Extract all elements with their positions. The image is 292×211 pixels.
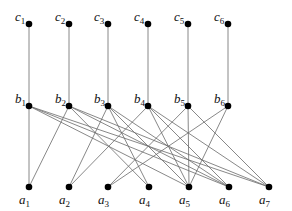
edge-b6-a5: [189, 106, 228, 187]
node-c5: [185, 21, 192, 28]
node-a6: [226, 184, 233, 191]
edge-b3-a2: [69, 106, 108, 187]
edge-b2-a1: [29, 106, 69, 187]
label-c2: c2: [55, 9, 65, 26]
label-a1: a1: [19, 192, 30, 209]
edge-b3-a4: [108, 106, 149, 187]
node-c4: [145, 21, 152, 28]
label-a6: a6: [219, 192, 231, 209]
label-a2: a2: [59, 192, 70, 209]
label-a5: a5: [179, 192, 191, 209]
node-c1: [26, 21, 33, 28]
label-a3: a3: [98, 192, 110, 209]
label-c3: c3: [94, 9, 105, 26]
node-b1: [26, 103, 33, 110]
node-c3: [105, 21, 112, 28]
node-a3: [105, 184, 112, 191]
label-a4: a4: [139, 192, 151, 209]
node-b5: [185, 103, 192, 110]
node-c6: [225, 21, 232, 28]
node-c2: [66, 21, 73, 28]
node-b6: [225, 103, 232, 110]
label-c6: c6: [214, 9, 225, 26]
node-b4: [145, 103, 152, 110]
label-b1: b1: [15, 91, 26, 108]
label-c5: c5: [174, 9, 185, 26]
label-c4: c4: [134, 9, 145, 26]
edge-b5-a5: [188, 106, 189, 187]
edge-b5-a7: [188, 106, 269, 187]
node-b3: [105, 103, 112, 110]
label-b2: b2: [55, 91, 66, 108]
label-a7: a7: [259, 192, 271, 209]
label-c1: c1: [15, 9, 25, 26]
label-b4: b4: [134, 91, 146, 108]
node-a4: [146, 184, 153, 191]
label-b3: b3: [94, 91, 106, 108]
node-a2: [66, 184, 73, 191]
node-a5: [186, 184, 193, 191]
labels: c1c2c3c4c5c6b1b2b3b4b5b6a1a2a3a4a5a6a7: [15, 9, 271, 209]
label-b6: b6: [214, 91, 226, 108]
label-b5: b5: [174, 91, 186, 108]
layered-graph-diagram: c1c2c3c4c5c6b1b2b3b4b5b6a1a2a3a4a5a6a7: [0, 0, 292, 211]
node-a7: [266, 184, 273, 191]
node-b2: [66, 103, 73, 110]
node-a1: [26, 184, 33, 191]
edge-b1-a6: [29, 106, 229, 187]
